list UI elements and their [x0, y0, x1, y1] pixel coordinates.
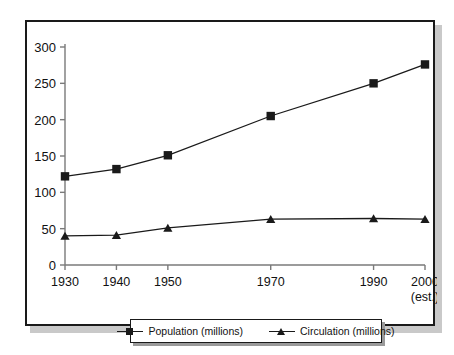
svg-text:100: 100 [34, 185, 56, 200]
legend-label-population: Population (millions) [148, 326, 243, 337]
svg-text:(est.): (est.) [411, 290, 437, 304]
svg-text:50: 50 [42, 222, 56, 237]
chart-legend: Population (millions) Circulation (milli… [130, 319, 382, 343]
line-chart: 0501001502002503001930194019501970199020… [27, 22, 437, 328]
svg-text:1970: 1970 [257, 275, 285, 289]
svg-text:1990: 1990 [360, 275, 388, 289]
svg-text:1950: 1950 [154, 275, 182, 289]
svg-text:150: 150 [34, 149, 56, 164]
svg-text:300: 300 [34, 40, 56, 55]
svg-text:200: 200 [34, 113, 56, 128]
legend-label-circulation: Circulation (millions) [300, 326, 395, 337]
legend-item-population[interactable]: Population (millions) [117, 326, 243, 337]
svg-text:1940: 1940 [103, 275, 131, 289]
svg-text:2000: 2000 [411, 275, 437, 289]
square-marker-icon [117, 326, 143, 336]
plot-area: 0501001502002503001930194019501970199020… [27, 22, 437, 328]
svg-text:0: 0 [49, 258, 56, 273]
chart-frame: 0501001502002503001930194019501970199020… [25, 20, 435, 326]
chart-screenshot: 0501001502002503001930194019501970199020… [0, 0, 454, 355]
svg-text:1930: 1930 [51, 275, 79, 289]
triangle-marker-icon [269, 326, 295, 336]
legend-item-circulation[interactable]: Circulation (millions) [269, 326, 395, 337]
svg-text:250: 250 [34, 76, 56, 91]
